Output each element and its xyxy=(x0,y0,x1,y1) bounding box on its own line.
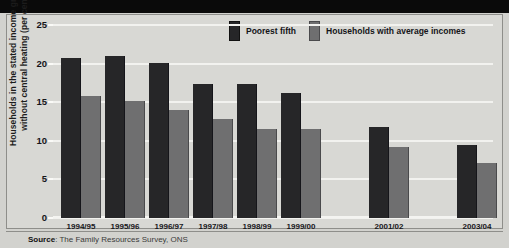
bar[interactable] xyxy=(169,110,189,218)
source-note: Source: The Family Resources Survey, ONS xyxy=(6,235,503,244)
bar[interactable] xyxy=(125,101,145,218)
y-tick-label: 15 xyxy=(36,96,47,107)
bar[interactable] xyxy=(281,93,301,218)
bar[interactable] xyxy=(301,129,321,218)
bar-group: 1994/95 xyxy=(61,25,101,218)
bar-group: 2001/02 xyxy=(369,25,409,218)
bar[interactable] xyxy=(213,119,233,218)
chart-panel: Households in the stated income groups w… xyxy=(6,14,503,229)
plot-area: 0510152025 1994/951995/961996/971997/981… xyxy=(53,25,493,218)
source-text: The Family Resources Survey, ONS xyxy=(59,235,187,244)
y-tick-label: 25 xyxy=(36,19,47,30)
bar-group: 1996/97 xyxy=(149,25,189,218)
source-container: Source: The Family Resources Survey, ONS xyxy=(6,231,503,244)
bar-group: 1995/96 xyxy=(105,25,145,218)
bar[interactable] xyxy=(477,163,497,218)
bar-group: 1998/99 xyxy=(237,25,277,218)
bar[interactable] xyxy=(389,147,409,218)
bar[interactable] xyxy=(81,96,101,218)
y-tick-label: 20 xyxy=(36,57,47,68)
x-tick-label: 2001/02 xyxy=(359,222,419,231)
y-tick-label: 0 xyxy=(42,212,47,223)
bar[interactable] xyxy=(257,129,277,218)
x-tick-label: 2003/04 xyxy=(447,222,507,231)
bar[interactable] xyxy=(149,63,169,218)
bar-groups: 1994/951995/961996/971997/981998/991999/… xyxy=(53,25,493,218)
y-tick-label: 10 xyxy=(36,134,47,145)
bar[interactable] xyxy=(105,56,125,218)
bar[interactable] xyxy=(369,127,389,218)
bar[interactable] xyxy=(237,84,257,218)
bar[interactable] xyxy=(457,145,477,218)
y-tick-label: 5 xyxy=(42,173,47,184)
bar-group: 2003/04 xyxy=(457,25,497,218)
source-prefix: Source xyxy=(28,235,55,244)
y-axis-title: Households in the stated income groups w… xyxy=(8,0,30,152)
x-tick-label: 1999/00 xyxy=(271,222,331,231)
bar[interactable] xyxy=(61,58,81,218)
bar-group: 1997/98 xyxy=(193,25,233,218)
bar-group: 1999/00 xyxy=(281,25,321,218)
top-black-band xyxy=(0,0,509,13)
chart-figure: Households in the stated income groups w… xyxy=(0,0,509,248)
bar[interactable] xyxy=(193,84,213,218)
